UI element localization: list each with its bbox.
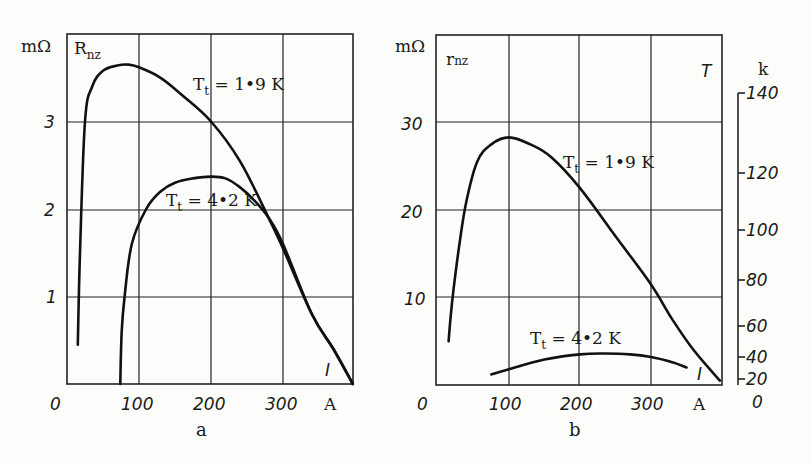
panel-b-xtick-300: 300 [631, 394, 663, 414]
panel-b-ytick-30: 30 [401, 114, 423, 134]
panel-a-label-1.9K: Tt = 1•9 K [193, 74, 284, 98]
secondary-unit: k [758, 59, 769, 79]
secondary-tick-60: 60 [746, 316, 768, 336]
panel-a-xtick-300: 300 [265, 394, 297, 414]
panel-a-ytick-1: 1 [46, 287, 57, 307]
panel-a-y-unit: mΩ [21, 36, 51, 56]
panel-b-xtick-100: 100 [489, 394, 521, 414]
panel-b-label-4.2K: Tt = 4•2 K [530, 328, 621, 352]
secondary-tick-0: 0 [752, 392, 763, 412]
panel-b-ytick-20: 20 [401, 202, 423, 222]
panel-a-y-quantity: Rnz [74, 38, 101, 62]
panel-b-xtick-0: 0 [417, 394, 428, 414]
secondary-tick-140: 140 [746, 83, 778, 103]
panel-b-xtick-200: 200 [560, 394, 592, 414]
panel-b-ytick-10: 10 [404, 289, 426, 309]
panel-a-xtick-100: 100 [121, 394, 153, 414]
secondary-tick-80: 80 [746, 270, 768, 290]
panel-a: mΩ Rnz 3 2 1 0 100 200 300 A I Tt = 1•9 … [21, 34, 353, 440]
panel-a-xtick-0: 0 [50, 394, 61, 414]
panel-b: mΩ rnz 30 20 10 0 100 200 300 A I T Tt =… [395, 35, 778, 440]
secondary-tick-40: 40 [746, 347, 768, 367]
panel-b-y-quantity: rnz [446, 49, 468, 69]
panel-b-x-unit: A [692, 394, 706, 414]
figure: mΩ Rnz 3 2 1 0 100 200 300 A I Tt = 1•9 … [0, 0, 811, 464]
panel-a-xtick-200: 200 [193, 394, 225, 414]
panel-b-secondary-quantity: T [701, 61, 713, 81]
panel-b-label-1.9K: Tt = 1•9 K [563, 152, 654, 176]
panel-b-y-unit: mΩ [395, 36, 425, 56]
panel-a-x-unit: A [323, 394, 337, 414]
secondary-tick-100: 100 [746, 220, 778, 240]
panel-a-ytick-2: 2 [44, 200, 55, 220]
secondary-axis: k 140120100806040200 [738, 59, 778, 412]
secondary-tick-120: 120 [746, 163, 778, 183]
curve-a-1.9K [78, 64, 353, 384]
panel-a-caption: a [196, 419, 207, 440]
panel-a-x-quantity: I [325, 360, 330, 380]
panel-b-caption: b [569, 419, 581, 440]
curve-b-4.2K [491, 353, 686, 374]
secondary-tick-20: 20 [746, 369, 768, 389]
panel-b-x-quantity: I [697, 364, 702, 384]
panel-a-ytick-3: 3 [44, 112, 55, 132]
